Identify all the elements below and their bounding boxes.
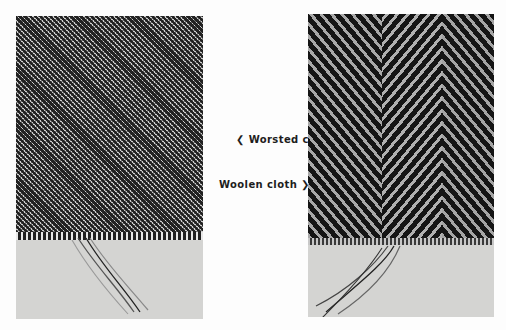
woolen-cloth-photo bbox=[308, 14, 494, 317]
worsted-cloth-photo bbox=[16, 16, 203, 319]
left-pointer-icon: ❮ bbox=[236, 134, 245, 145]
woolen-cloth-caption: Woolen cloth ❯ bbox=[219, 179, 310, 190]
worsted-loose-threads bbox=[16, 16, 203, 319]
woolen-cloth-label: Woolen cloth bbox=[219, 179, 297, 190]
woolen-loose-threads bbox=[308, 14, 494, 317]
